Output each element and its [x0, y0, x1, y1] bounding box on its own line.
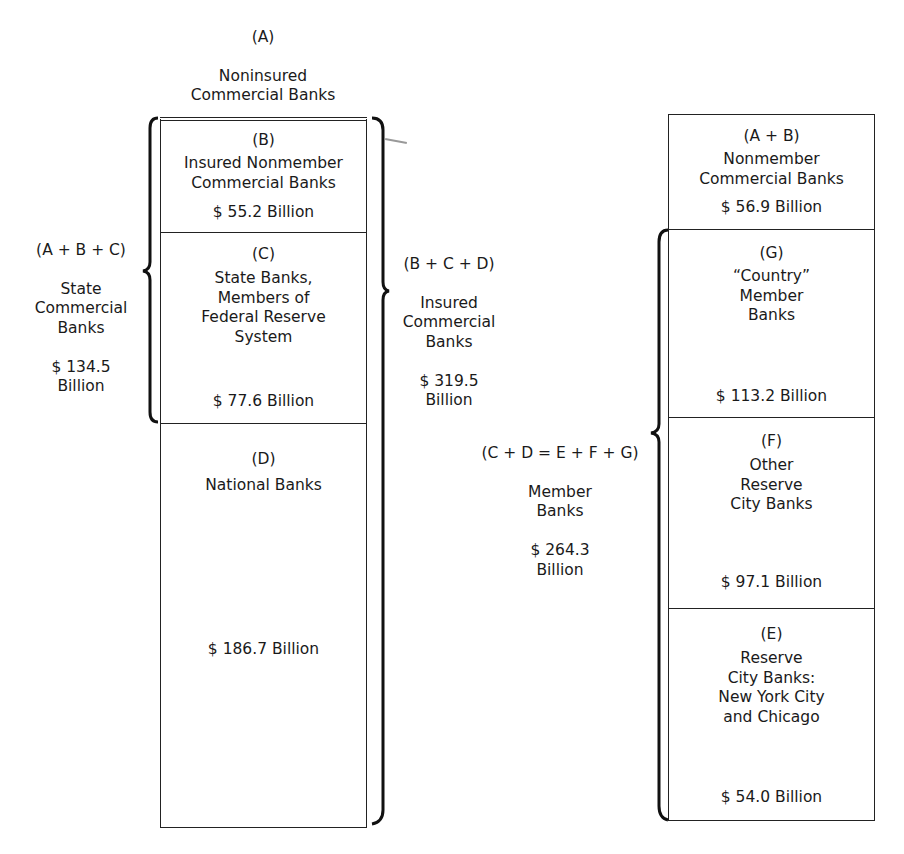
segment-d-national: (D) National Banks $ 186.7 Billion: [161, 423, 366, 827]
segment-e-amount: $ 54.0 Billion: [669, 787, 874, 807]
insured-commercial-banks-brace: [370, 116, 390, 828]
segment-d-amount: $ 186.7 Billion: [161, 639, 366, 659]
segment-ab-letter: (A + B): [669, 127, 874, 147]
segment-g-amount: $ 113.2 Billion: [669, 386, 874, 406]
segment-f-amount: $ 97.1 Billion: [669, 572, 874, 592]
segment-f-other-reserve-city: (F) Other Reserve City Banks $ 97.1 Bill…: [669, 417, 874, 608]
segment-e-name: Reserve City Banks: New York City and Ch…: [669, 649, 874, 727]
segment-ab-name: Nonmember Commercial Banks: [669, 150, 874, 189]
segment-f-name: Other Reserve City Banks: [669, 456, 874, 515]
segment-f-letter: (F): [669, 432, 874, 452]
insured-commercial-banks-label: (B + C + D) Insured Commercial Banks $ 3…: [390, 235, 508, 430]
segment-d-name: National Banks: [161, 476, 366, 496]
segment-g-name: “Country” Member Banks: [669, 267, 874, 326]
segment-g-country-member: (G) “Country” Member Banks $ 113.2 Billi…: [669, 229, 874, 417]
segment-b-letter: (B): [161, 131, 366, 151]
member-banks-amount: $ 264.3 Billion: [470, 541, 650, 580]
insured-commercial-banks-amount: $ 319.5 Billion: [390, 372, 508, 411]
insured-commercial-banks-name: Insured Commercial Banks: [390, 294, 508, 353]
left-stack-box: (B) Insured Nonmember Commercial Banks $…: [160, 117, 367, 828]
segment-e-central-reserve-city: (E) Reserve City Banks: New York City an…: [669, 608, 874, 820]
segment-c-name: State Banks, Members of Federal Reserve …: [161, 269, 366, 347]
right-stack-box: (A + B) Nonmember Commercial Banks $ 56.…: [668, 114, 875, 821]
segment-a-name: Noninsured Commercial Banks: [160, 67, 366, 106]
member-banks-formula: (C + D = E + F + G): [470, 444, 650, 464]
state-commercial-banks-amount: $ 134.5 Billion: [18, 358, 144, 397]
segment-c-letter: (C): [161, 245, 366, 265]
state-commercial-banks-name: State Commercial Banks: [18, 280, 144, 339]
segment-ab-amount: $ 56.9 Billion: [669, 197, 874, 217]
segment-d-letter: (D): [161, 450, 366, 470]
segment-ab-nonmember: (A + B) Nonmember Commercial Banks $ 56.…: [669, 115, 874, 229]
segment-e-letter: (E): [669, 625, 874, 645]
member-banks-brace: [648, 228, 670, 824]
segment-b-amount: $ 55.2 Billion: [161, 202, 366, 222]
member-banks-label: (C + D = E + F + G) Member Banks $ 264.3…: [470, 424, 650, 600]
segment-b-name: Insured Nonmember Commercial Banks: [161, 154, 366, 193]
state-commercial-banks-label: (A + B + C) State Commercial Banks $ 134…: [18, 221, 144, 416]
segment-b-insured-nonmember: (B) Insured Nonmember Commercial Banks $…: [161, 121, 366, 232]
segment-g-letter: (G): [669, 244, 874, 264]
state-commercial-banks-formula: (A + B + C): [18, 241, 144, 261]
member-banks-name: Member Banks: [470, 483, 650, 522]
insured-commercial-banks-formula: (B + C + D): [390, 255, 508, 275]
segment-a-letter: (A): [160, 28, 366, 48]
segment-c-state-member: (C) State Banks, Members of Federal Rese…: [161, 232, 366, 423]
segment-c-amount: $ 77.6 Billion: [161, 391, 366, 411]
